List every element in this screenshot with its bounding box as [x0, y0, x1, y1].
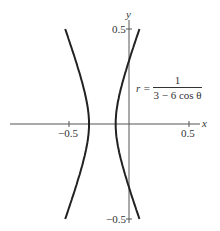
y-axis-label: y: [126, 9, 131, 20]
equation-denominator: 3 − 6 cos θ: [153, 88, 201, 101]
equation-lhs: r =: [136, 82, 150, 94]
x-tick-label-neg: −0.5: [58, 128, 78, 139]
equation-annotation: r = 1 3 − 6 cos θ: [136, 74, 202, 101]
polar-plot: [0, 0, 220, 231]
x-axis-label: x: [202, 118, 207, 129]
y-tick-label-neg: −0.5: [106, 214, 126, 225]
x-tick-label-pos: 0.5: [181, 128, 195, 139]
equation-numerator: 1: [153, 74, 201, 88]
y-tick-label-pos: 0.5: [112, 24, 126, 35]
